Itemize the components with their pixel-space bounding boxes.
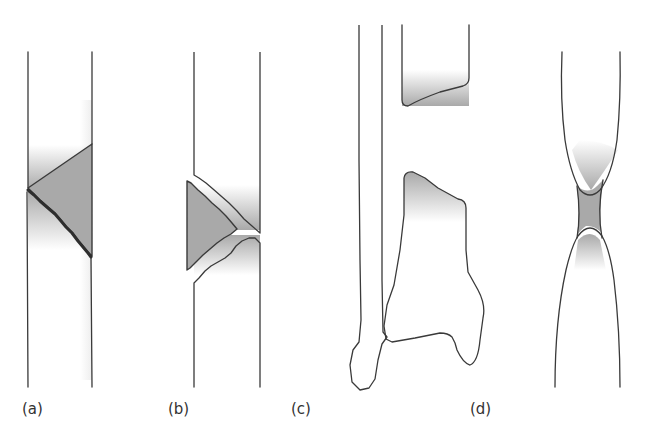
shading-upper-fragment bbox=[402, 70, 469, 106]
panel-a bbox=[27, 52, 92, 387]
panel-label-c: (c) bbox=[291, 400, 311, 418]
shading-lower bbox=[574, 234, 606, 270]
panel-label-d: (d) bbox=[470, 400, 491, 418]
panel-c bbox=[350, 25, 484, 390]
fracture-diagram bbox=[0, 0, 651, 435]
cortex-left-lower bbox=[27, 192, 28, 387]
fibula bbox=[350, 25, 387, 390]
panel-b bbox=[187, 52, 260, 387]
panel-label-a: (a) bbox=[22, 400, 43, 418]
shading-lower-fragment bbox=[404, 172, 466, 222]
shading-upper bbox=[572, 140, 618, 190]
panel-label-b: (b) bbox=[168, 400, 189, 418]
panel-d bbox=[555, 52, 620, 387]
